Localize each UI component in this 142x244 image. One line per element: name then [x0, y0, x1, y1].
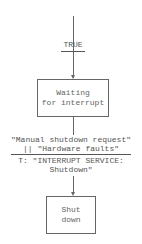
transition-separator	[11, 154, 131, 155]
state-label-line2: for interrupt	[42, 98, 104, 108]
state-shutdown[interactable]: Shut down	[46, 196, 96, 234]
transition-condition-line2: || "Hardware faults"	[0, 144, 142, 154]
state-waiting-for-interrupt[interactable]: Waiting for interrupt	[37, 79, 109, 117]
state-label-line2: down	[61, 215, 80, 225]
state-label-line1: Shut	[61, 205, 80, 215]
entry-condition-label: TRUE	[53, 40, 93, 50]
entry-condition-underline	[61, 51, 85, 52]
state-label-line1: Waiting	[42, 88, 104, 98]
transition-line-upper	[73, 117, 74, 135]
transition-action-line2: Shutdown"	[0, 165, 142, 175]
